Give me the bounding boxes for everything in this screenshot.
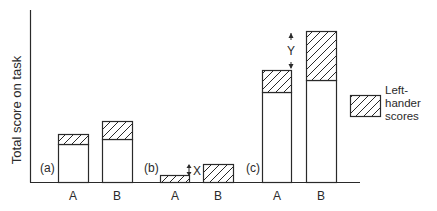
legend-label-line1: Left- <box>385 84 408 96</box>
bar-c-B-lefthander <box>307 32 337 81</box>
legend: Left- hander scores <box>351 84 421 122</box>
legend-label-line3: scores <box>385 110 419 122</box>
bar-a-B-lefthander <box>103 122 133 140</box>
annotation-y: Y <box>287 44 295 58</box>
legend-swatch-hatched <box>351 96 381 117</box>
x-tick-b-A: A <box>171 189 179 203</box>
x-tick-a-A: A <box>69 189 77 203</box>
x-annotation-arrow-icon <box>187 164 192 176</box>
bar-c-A-lefthander <box>263 71 292 93</box>
panel-a: (a) A B <box>40 122 133 204</box>
y-axis-label: Total score on task <box>9 55 24 164</box>
x-tick-c-A: A <box>273 189 281 203</box>
x-tick-b-B: B <box>214 189 222 203</box>
panel-c: (c) Y A B <box>246 32 337 204</box>
bar-b-A-lefthander <box>161 176 190 183</box>
panel-label-b: (b) <box>144 161 159 175</box>
stacked-bar-chart: Total score on task (a) A B (b) X A B (c… <box>0 0 437 211</box>
bar-c-B-base <box>307 81 337 183</box>
x-tick-a-B: B <box>113 189 121 203</box>
x-tick-c-B: B <box>317 189 325 203</box>
panel-label-c: (c) <box>246 161 260 175</box>
bar-b-B-lefthander <box>204 165 234 183</box>
bar-a-A-base <box>59 145 89 183</box>
panel-label-a: (a) <box>40 161 55 175</box>
annotation-x: X <box>193 164 201 178</box>
bar-c-A-base <box>263 93 292 183</box>
bar-a-B-base <box>103 140 133 183</box>
bar-a-A-lefthander <box>59 135 89 145</box>
legend-label-line2: hander <box>385 97 421 109</box>
